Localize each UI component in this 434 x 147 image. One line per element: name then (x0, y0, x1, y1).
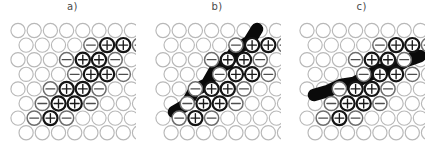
lattice-site-empty (132, 96, 136, 110)
lattice-site-empty (19, 96, 33, 110)
lattice-site-empty (220, 111, 234, 125)
lattice-site-empty (325, 38, 339, 52)
lattice-site-empty (333, 53, 347, 67)
lattice-site-empty (333, 23, 347, 37)
lattice-site-empty (60, 23, 74, 37)
lattice-site-empty (172, 23, 186, 37)
lattice-site-empty (100, 126, 114, 140)
lattice-site-empty (124, 53, 136, 67)
lattice-site-empty (132, 126, 136, 140)
lattice-site-empty (132, 67, 136, 81)
lattice-site-empty (325, 67, 339, 81)
lattice-site-empty (212, 38, 226, 52)
lattice-site-empty (124, 111, 136, 125)
lattice-site-empty (164, 38, 178, 52)
lattice-site-empty (325, 126, 339, 140)
lattice-site-empty (108, 111, 122, 125)
lattice-site-empty (277, 67, 281, 81)
lattice-site-empty (308, 38, 322, 52)
lattice-site-empty (397, 82, 411, 96)
lattice-site-empty (68, 38, 82, 52)
lattice-site-empty (180, 38, 194, 52)
lattice-site-empty (116, 126, 130, 140)
lattice-site-empty (422, 96, 426, 110)
lattice-site-empty (261, 96, 275, 110)
lattice-site-empty (212, 126, 226, 140)
panel-a: a) (0, 0, 145, 147)
lattice-site-empty (365, 23, 379, 37)
lattice-site-empty (76, 111, 90, 125)
lattice-site-empty (92, 111, 106, 125)
lattice-site-empty (261, 126, 275, 140)
lattice-site-empty (116, 96, 130, 110)
lattice-site-empty (341, 38, 355, 52)
lattice-site-empty (19, 126, 33, 140)
lattice-site-empty (245, 126, 259, 140)
lattice-site-empty (35, 38, 49, 52)
lattice-site-empty (406, 126, 420, 140)
lattice-site-empty (269, 53, 281, 67)
lattice-site-empty (188, 23, 202, 37)
lattice-site-empty (277, 96, 281, 110)
lattice-site-empty (397, 111, 411, 125)
lattice-site-empty (357, 126, 371, 140)
lattice-site-empty (43, 53, 57, 67)
lattice-site-empty (300, 53, 314, 67)
lattice-site-empty (397, 23, 411, 37)
lattice-site-empty (277, 126, 281, 140)
lattice-site-empty (156, 23, 170, 37)
lattice-site-empty (253, 82, 267, 96)
lattice-site-empty (365, 111, 379, 125)
lattice-site-empty (11, 111, 25, 125)
lattice-site-empty (414, 111, 426, 125)
lattice-site-empty (228, 126, 242, 140)
lattice-site-empty (300, 23, 314, 37)
lattice-site-empty (389, 126, 403, 140)
lattice-site-empty (27, 23, 41, 37)
lattice-site-empty (35, 67, 49, 81)
lattice-site-empty (269, 82, 281, 96)
lattice-site-empty (51, 126, 65, 140)
lattice-site-empty (188, 53, 202, 67)
panel-label-b: b) (145, 1, 290, 12)
lattice-site-empty (422, 126, 426, 140)
lattice-site-empty (19, 67, 33, 81)
panel-b: b) (145, 0, 290, 147)
panel-label-a: a) (0, 1, 145, 12)
lattice-site-empty (220, 23, 234, 37)
lattice-site-empty (381, 111, 395, 125)
lattice-site-empty (245, 96, 259, 110)
lattice-site-empty (172, 53, 186, 67)
lattice-site-empty (406, 96, 420, 110)
lattice-site-empty (108, 23, 122, 37)
lattice-site-empty (27, 53, 41, 67)
lattice-site-empty (124, 23, 136, 37)
panel-label-c: c) (289, 1, 434, 12)
lattice-site-empty (349, 23, 363, 37)
lattice-site-empty (196, 126, 210, 140)
lattice-site-empty (300, 111, 314, 125)
lattice-site-empty (269, 23, 281, 37)
lattice-site-empty (51, 38, 65, 52)
lattice-site-empty (43, 23, 57, 37)
lattice-site-empty (11, 53, 25, 67)
lattice-site-empty (164, 126, 178, 140)
lattice-site-empty (269, 111, 281, 125)
lattice-site-empty (68, 126, 82, 140)
figure-root: a) b) c) (0, 0, 434, 147)
lattice-site-empty (357, 38, 371, 52)
lattice-site-empty (341, 126, 355, 140)
lattice-c (298, 22, 425, 142)
lattice-site-empty (381, 23, 395, 37)
lattice-site-empty (172, 82, 186, 96)
lattice-site-empty (156, 53, 170, 67)
lattice-site-empty (253, 111, 267, 125)
lattice-site-empty (422, 67, 426, 81)
lattice-site-empty (11, 82, 25, 96)
lattice-site-empty (204, 23, 218, 37)
lattice-site-empty (308, 126, 322, 140)
lattice-site-empty (156, 82, 170, 96)
lattice-site-empty (51, 67, 65, 81)
lattice-site-empty (124, 82, 136, 96)
lattice-site-empty (389, 96, 403, 110)
